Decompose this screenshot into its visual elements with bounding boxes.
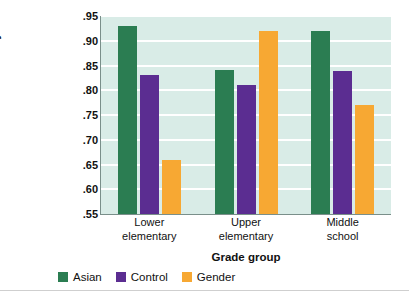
legend-label: Gender xyxy=(197,271,235,283)
bar-asian-1 xyxy=(118,26,137,214)
bar-gender-1 xyxy=(162,160,181,214)
page-divider xyxy=(0,290,409,291)
gridline xyxy=(101,15,391,17)
gridline xyxy=(101,40,391,42)
y-axis-tick-labels: .95.90.85.80.75.70.65.60.55 xyxy=(70,16,98,214)
bar-chart-figure: Math test accuracy .95.90.85.80.75.70.65… xyxy=(0,0,409,298)
y-tick-label: .65 xyxy=(70,159,98,171)
bar-control-3 xyxy=(333,71,352,214)
x-group-label-line: Upper xyxy=(198,216,295,230)
y-tick-label: .80 xyxy=(70,84,98,96)
x-group-label: Middleschool xyxy=(294,216,391,243)
bar-gender-3 xyxy=(355,105,374,214)
legend-swatch-icon xyxy=(182,272,192,282)
x-group-label: Lowerelementary xyxy=(101,216,198,243)
y-tick-label: .60 xyxy=(70,183,98,195)
legend-label: Control xyxy=(131,271,168,283)
x-group-label-line: Middle xyxy=(294,216,391,230)
plot-area xyxy=(101,16,391,214)
bar-gender-2 xyxy=(259,31,278,214)
legend-label: Asian xyxy=(73,271,102,283)
x-group-label-line: elementary xyxy=(101,230,198,244)
legend-item-control[interactable]: Control xyxy=(116,271,168,283)
y-tick-label: .95 xyxy=(70,10,98,22)
x-axis-group-labels: LowerelementaryUpperelementaryMiddlescho… xyxy=(101,216,391,256)
x-group-label-line: school xyxy=(294,230,391,244)
gridline xyxy=(101,65,391,67)
y-tick-label: .55 xyxy=(70,208,98,220)
y-tick-label: .85 xyxy=(70,60,98,72)
legend-item-asian[interactable]: Asian xyxy=(58,271,102,283)
x-group-label: Upperelementary xyxy=(198,216,295,243)
legend-swatch-icon xyxy=(116,272,126,282)
bar-control-1 xyxy=(140,75,159,214)
legend-item-gender[interactable]: Gender xyxy=(182,271,235,283)
y-tick-label: .75 xyxy=(70,109,98,121)
x-group-label-line: elementary xyxy=(198,230,295,244)
legend-swatch-icon xyxy=(58,272,68,282)
y-tick-label: .90 xyxy=(70,35,98,47)
bar-asian-2 xyxy=(215,70,234,214)
chart-legend: AsianControlGender xyxy=(58,269,235,285)
x-axis-title: Grade group xyxy=(101,251,391,263)
bar-asian-3 xyxy=(311,31,330,214)
y-axis-title: Math test accuracy xyxy=(0,14,7,154)
x-group-label-line: Lower xyxy=(101,216,198,230)
bar-control-2 xyxy=(237,85,256,214)
y-tick-label: .70 xyxy=(70,134,98,146)
